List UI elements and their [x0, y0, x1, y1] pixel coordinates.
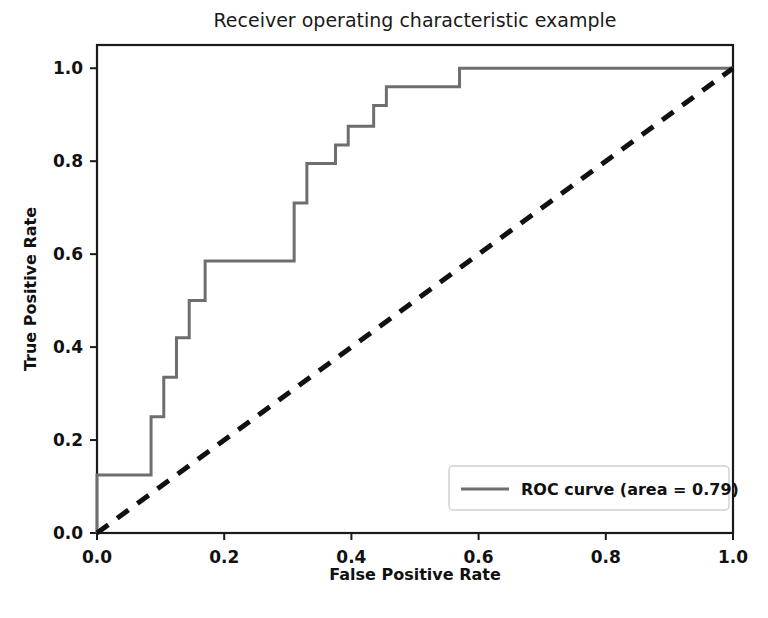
x-tick-label: 0.4 [336, 547, 366, 567]
y-tick-label: 0.0 [53, 523, 83, 543]
x-tick-label: 1.0 [718, 547, 748, 567]
plot-area-background [97, 45, 733, 533]
y-axis-label: True Positive Rate [21, 207, 40, 371]
x-tick-label: 0.8 [591, 547, 621, 567]
x-axis-label: False Positive Rate [329, 565, 501, 584]
legend-entry-label: ROC curve (area = 0.79) [521, 480, 739, 499]
chart-title: Receiver operating characteristic exampl… [213, 9, 616, 31]
y-tick-label: 0.2 [53, 430, 83, 450]
chart-legend[interactable]: ROC curve (area = 0.79) [449, 466, 739, 510]
roc-chart-figure: Receiver operating characteristic exampl… [0, 0, 768, 618]
x-tick-label: 0.6 [464, 547, 494, 567]
y-tick-label: 0.6 [53, 244, 83, 264]
y-tick-label: 1.0 [53, 58, 83, 78]
x-tick-label: 0.0 [82, 547, 112, 567]
chart-canvas: Receiver operating characteristic exampl… [0, 0, 768, 618]
y-tick-label: 0.4 [53, 337, 83, 357]
y-tick-label: 0.8 [53, 151, 83, 171]
x-tick-label: 0.2 [209, 547, 239, 567]
